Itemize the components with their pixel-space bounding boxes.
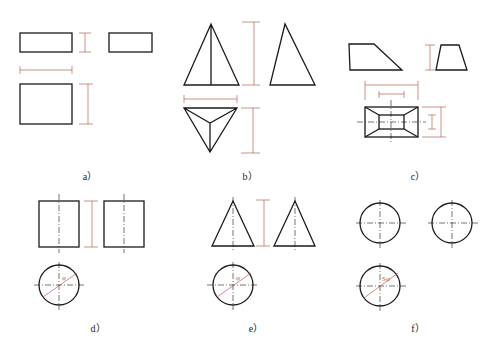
width-dimension <box>79 84 93 124</box>
panel-b-drawing <box>184 22 315 153</box>
panel-f-label: f） <box>411 320 424 335</box>
side-view <box>436 45 467 70</box>
panel-b-label: b） <box>243 168 258 183</box>
length-dimension <box>20 66 72 74</box>
side-view <box>109 33 152 52</box>
diameter-symbol: φ <box>236 274 240 282</box>
panel-a-label: a） <box>83 168 97 183</box>
top-view <box>184 108 237 152</box>
sphere-diameter-dimension <box>364 273 398 298</box>
center-lines <box>34 262 85 310</box>
front-view <box>184 24 239 85</box>
axis-lines <box>59 194 124 253</box>
top-view <box>20 84 72 124</box>
panel-c-label: c） <box>411 168 425 183</box>
panel-d-drawing: φ <box>34 194 144 310</box>
center-lines <box>356 200 479 311</box>
sphere-diameter-symbol: Sφ <box>382 275 390 283</box>
panel-f-drawing: Sφ <box>356 200 479 311</box>
panel-d-label: d） <box>91 320 106 335</box>
height-dimension <box>242 22 260 85</box>
diameter-symbol: φ <box>62 274 66 282</box>
panel-c-drawing <box>349 44 467 144</box>
panel-e-label: e） <box>249 320 263 335</box>
panel-a-drawing <box>20 33 152 124</box>
front-view <box>349 44 402 70</box>
height-dimension <box>79 33 91 52</box>
side-view <box>274 201 315 246</box>
front-view <box>20 33 72 52</box>
inner-width-dimension <box>428 115 436 129</box>
length-dimension <box>184 95 237 103</box>
width-dimension <box>241 108 260 153</box>
inner-length-dimension <box>379 91 404 98</box>
height-dimension <box>425 45 435 70</box>
panel-e-drawing: φ <box>207 197 315 310</box>
height-dimension <box>84 201 98 247</box>
height-dimension <box>256 200 270 246</box>
side-view <box>270 24 315 85</box>
length-dimension <box>365 81 418 100</box>
